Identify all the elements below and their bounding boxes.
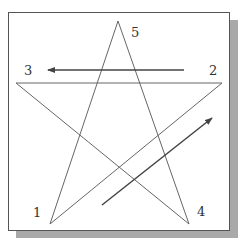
point-label-5: 5 — [131, 25, 139, 40]
point-label-1: 1 — [33, 205, 41, 220]
point-label-3: 3 — [24, 63, 32, 78]
point-label-4: 4 — [197, 204, 205, 219]
pentagram-diagram: 1 2 3 4 5 — [0, 0, 241, 244]
pentagram-outline — [16, 21, 222, 224]
point-label-2: 2 — [209, 63, 217, 78]
